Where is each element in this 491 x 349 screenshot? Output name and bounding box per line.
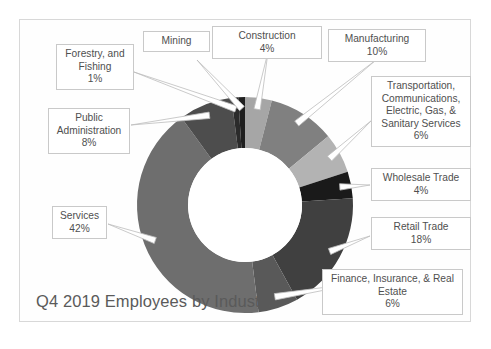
callout-retail-trade[interactable]: Retail Trade 18% [371, 217, 471, 250]
leader-line [295, 60, 376, 126]
doughnut-hole [188, 148, 302, 262]
callout-wholesale-trade[interactable]: Wholesale Trade 4% [371, 168, 471, 201]
chart-title: Q4 2019 Employees by Industry [36, 292, 274, 311]
callout-forestry-and-fishing[interactable]: Forestry, and Fishing 1% [56, 44, 134, 90]
callout-manufacturing[interactable]: Manufacturing 10% [328, 29, 426, 62]
callout-construction[interactable]: Construction 4% [212, 26, 322, 59]
leader-line [327, 120, 372, 161]
chart-container: Forestry, and Fishing 1% Mining Construc… [0, 0, 491, 349]
leader-line [134, 72, 237, 112]
callout-public-administration[interactable]: Public Administration 8% [48, 108, 130, 154]
callout-finance-insurance-real-estate[interactable]: Finance, Insurance, & Real Estate 6% [322, 269, 463, 315]
callout-mining[interactable]: Mining [143, 31, 210, 52]
leader-line [340, 184, 370, 190]
callout-services[interactable]: Services 42% [52, 206, 107, 239]
callout-transportation[interactable]: Transportation, Communications, Electric… [371, 76, 471, 147]
